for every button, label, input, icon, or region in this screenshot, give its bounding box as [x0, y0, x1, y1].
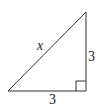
right-angle-marker: [76, 81, 86, 91]
right-triangle: [8, 12, 86, 91]
hypotenuse-label: x: [36, 38, 44, 53]
horizontal-leg-label: 3: [49, 92, 56, 107]
triangle-diagram: x 3 3: [0, 0, 101, 108]
vertical-leg-label: 3: [88, 49, 95, 64]
